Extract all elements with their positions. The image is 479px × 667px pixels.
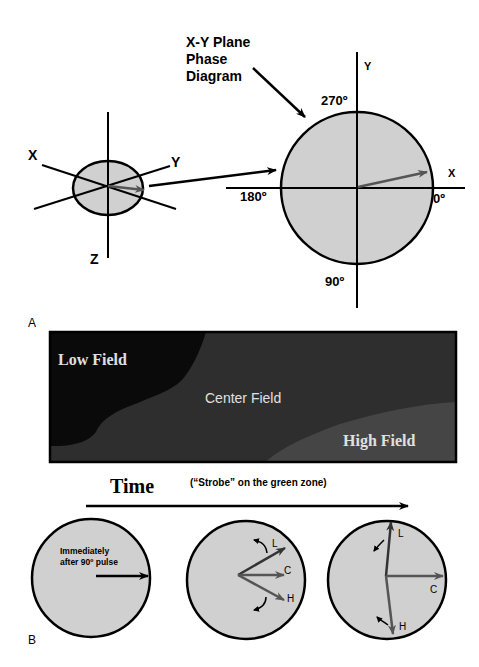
phase-diagram-title-line3: Diagram	[186, 68, 242, 84]
small-3d-axes: X Y Z	[28, 112, 181, 267]
deg-90-label: 90º	[325, 274, 344, 289]
diagram-canvas: X-Y Plane Phase Diagram X Y Z Y X 270º	[0, 0, 479, 667]
immediately-label-line2: after 90º pulse	[60, 557, 118, 567]
label-l-t2: L	[398, 528, 404, 539]
phase-circle-diagram: Y X 270º 180º 0º 90º	[226, 52, 465, 308]
panel-a-label: A	[28, 316, 36, 330]
low-field-label: Low Field	[58, 351, 127, 368]
time-label: Time	[110, 475, 154, 497]
phase-circle-t2: L C H	[328, 521, 446, 639]
phase-diagram-title-line1: X-Y Plane	[186, 34, 251, 50]
panel-b: Time (“Strobe” on the green zone) Immedi…	[28, 475, 446, 647]
center-field-label: Center Field	[205, 390, 281, 406]
panel-a: X-Y Plane Phase Diagram X Y Z Y X 270º	[28, 34, 465, 330]
deg-180-label: 180º	[240, 189, 267, 204]
strobe-label: (“Strobe” on the green zone)	[190, 477, 327, 488]
small-x-label: X	[28, 147, 38, 163]
phase-diagram-title-line2: Phase	[186, 51, 227, 67]
diagram-svg: X-Y Plane Phase Diagram X Y Z Y X 270º	[0, 0, 479, 667]
deg-270-label: 270º	[321, 93, 348, 108]
phase-circle-t0: Immediately after 90º pulse	[32, 519, 150, 637]
label-l-t1: L	[272, 538, 278, 549]
circle-t0	[32, 519, 150, 637]
field-map: Low Field Center Field High Field	[50, 332, 456, 462]
title-pointer-arrow	[253, 68, 305, 117]
phase-x-label: X	[448, 167, 456, 179]
immediately-label-line1: Immediately	[60, 546, 109, 556]
panel-b-label: B	[28, 633, 36, 647]
small-y-label: Y	[171, 154, 181, 170]
label-h-t2: H	[399, 621, 406, 632]
small-z-label: Z	[90, 251, 99, 267]
connector-arrow	[149, 170, 276, 186]
phase-y-label: Y	[364, 60, 372, 72]
high-field-label: High Field	[343, 432, 416, 450]
deg-0-label: 0º	[433, 191, 445, 206]
label-c-t2: C	[430, 584, 437, 595]
label-h-t1: H	[287, 593, 294, 604]
label-c-t1: C	[284, 565, 291, 576]
phase-circle-t1: L C H	[187, 521, 305, 639]
